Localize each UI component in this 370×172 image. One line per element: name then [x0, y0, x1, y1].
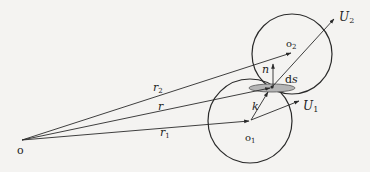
label-n: n: [262, 63, 269, 76]
label-r2: r2: [153, 81, 163, 95]
label-k: k: [252, 100, 259, 113]
diagram-svg: o o1 o2 r2 r r1 U2 U1 n k ds: [0, 0, 370, 172]
label-o2: o2: [286, 38, 297, 51]
label-ds: ds: [285, 73, 298, 86]
label-origin: o: [17, 144, 24, 157]
vector-r: [22, 88, 270, 140]
contact-point: [270, 85, 273, 88]
label-U2: U2: [339, 10, 354, 25]
vector-diagram: o o1 o2 r2 r r1 U2 U1 n k ds: [0, 0, 370, 172]
label-U1: U1: [303, 99, 318, 114]
label-r: r: [158, 100, 164, 113]
vector-r2: [22, 53, 291, 140]
vector-r1: [22, 121, 249, 140]
label-o1: o1: [245, 132, 256, 145]
